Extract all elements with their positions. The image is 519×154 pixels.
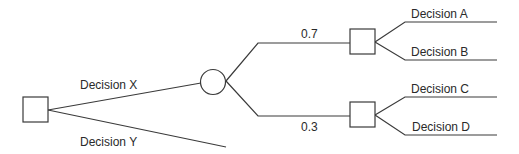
lower-decision-node <box>350 102 375 127</box>
label-decision-b: Decision B <box>411 45 468 59</box>
edge-decision-a <box>375 22 497 42</box>
label-probability-lower: 0.3 <box>301 120 318 134</box>
label-decision-x: Decision X <box>80 78 137 92</box>
chance-node <box>201 70 226 95</box>
label-decision-d: Decision D <box>412 120 470 134</box>
edge-probability-upper <box>226 43 350 81</box>
root-decision-node <box>23 97 48 122</box>
upper-decision-node <box>350 29 375 54</box>
edge-decision-c <box>375 97 497 115</box>
label-probability-upper: 0.7 <box>301 27 318 41</box>
edge-probability-lower <box>226 81 350 116</box>
decision-tree-diagram: Decision X Decision Y 0.7 0.3 Decision A… <box>0 0 519 154</box>
label-decision-y: Decision Y <box>80 135 137 149</box>
label-decision-c: Decision C <box>411 82 469 96</box>
label-decision-a: Decision A <box>411 7 468 21</box>
